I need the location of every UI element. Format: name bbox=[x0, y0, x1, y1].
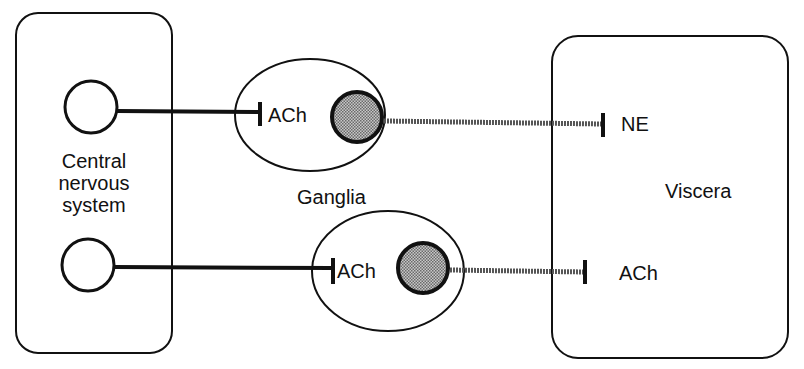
ganglion-cell-lower bbox=[398, 243, 448, 293]
ganglia-label: Ganglia bbox=[297, 186, 366, 208]
ach-label-lower-ganglion: ACh bbox=[337, 260, 376, 282]
postganglionic-fiber-upper bbox=[384, 121, 603, 124]
ach-label-upper-ganglion: ACh bbox=[268, 104, 307, 126]
cns-label-line2: nervous bbox=[36, 172, 152, 194]
preganglionic-fiber-lower bbox=[114, 267, 332, 268]
cns-label-line1: Central bbox=[36, 150, 152, 172]
cns-neuron-lower bbox=[62, 239, 114, 291]
ne-label: NE bbox=[621, 113, 649, 135]
ach-label-viscera: ACh bbox=[619, 262, 658, 284]
cns-neuron-upper bbox=[65, 81, 117, 133]
cns-label: Central nervous system bbox=[36, 150, 152, 216]
viscera-label: Viscera bbox=[665, 180, 731, 202]
preganglionic-fiber-upper bbox=[117, 111, 259, 112]
ganglion-cell-upper bbox=[332, 92, 382, 142]
cns-label-line3: system bbox=[36, 194, 152, 216]
postganglionic-fiber-lower bbox=[450, 270, 585, 272]
